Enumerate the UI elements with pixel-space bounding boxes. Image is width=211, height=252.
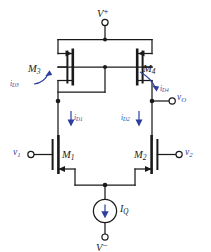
circuit-diagram: V+ V− M3 M4 M1 M2 iD3 iD4 iD1 iD2 v1 v2 <box>0 0 211 252</box>
id4-label: iD4 <box>160 85 169 94</box>
v1-label: v1 <box>13 148 21 158</box>
m1-label: M1 <box>62 150 75 161</box>
v2-label: v2 <box>185 148 193 158</box>
m3-label: M3 <box>28 64 41 75</box>
id2-label: iD2 <box>121 114 130 123</box>
id4-arrowhead <box>152 85 159 91</box>
v1-terminal-circle <box>28 151 34 157</box>
schematic-canvas <box>0 0 211 252</box>
id3-arrowhead <box>45 70 52 76</box>
vo-terminal-circle <box>169 98 175 104</box>
iq-label: IQ <box>120 204 129 216</box>
id2-arrowhead <box>136 119 143 126</box>
v2-terminal-circle <box>176 151 182 157</box>
vminus-label: V− <box>96 241 107 252</box>
m2-label: M2 <box>134 150 147 161</box>
transistor-m3 <box>58 49 73 102</box>
id1-label: iD1 <box>74 114 83 123</box>
current-arrow-id2 <box>136 111 143 127</box>
vplus-label: V+ <box>97 7 108 19</box>
m4-label: M4 <box>143 64 156 75</box>
output-node-group <box>150 98 176 140</box>
left-branch-node-group <box>56 99 61 140</box>
vplus-terminal-circle <box>102 19 108 25</box>
id3-label: iD3 <box>10 80 19 89</box>
vplus-rail-junction-dot <box>103 38 107 42</box>
vo-label: vO <box>177 93 186 103</box>
